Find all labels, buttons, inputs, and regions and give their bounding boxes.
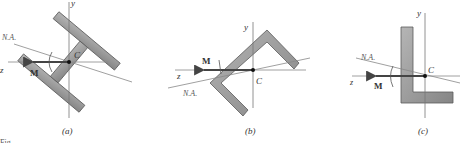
neutral-axis-label: N.A. xyxy=(360,53,375,62)
centroid-point xyxy=(423,74,427,78)
y-label: y xyxy=(70,0,75,8)
y-label: y xyxy=(416,8,421,18)
moment-label: M xyxy=(202,56,211,66)
caption-b: (b) xyxy=(245,126,256,136)
panel-a: y z C N.A. M (a) Fig. xyxy=(0,0,132,143)
z-label: z xyxy=(176,71,181,81)
y-label: y xyxy=(243,22,248,32)
centroid-label: C xyxy=(428,65,435,75)
centroid-point xyxy=(251,68,255,72)
centroid-label: C xyxy=(256,76,263,86)
centroid-label: C xyxy=(74,50,81,60)
moment-label: M xyxy=(30,68,39,78)
centroid-point xyxy=(67,60,71,64)
neutral-axis-label: N.A. xyxy=(1,33,16,42)
z-label: z xyxy=(0,65,4,75)
caption-c: (c) xyxy=(418,126,428,136)
angle-section xyxy=(210,30,299,116)
figure-canvas: y z C N.A. M (a) Fig. y z C N.A. M (b) xyxy=(0,0,462,143)
l-angle-section xyxy=(401,27,453,103)
figure-caption-partial: Fig. xyxy=(0,138,13,143)
neutral-axis-label: N.A. xyxy=(182,89,197,98)
panel-b: y z C N.A. M (b) xyxy=(168,22,310,136)
moment-rotation-icon xyxy=(219,60,221,74)
caption-a: (a) xyxy=(62,126,73,136)
z-label: z xyxy=(349,78,354,87)
moment-label: M xyxy=(374,81,383,91)
panel-c: y z C N.A. M (c) xyxy=(349,8,460,136)
